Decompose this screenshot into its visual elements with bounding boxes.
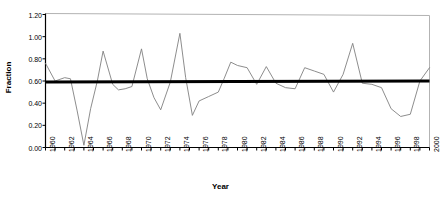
x-axis-ticks (46, 148, 430, 151)
trend-line (46, 81, 430, 82)
x-axis-title: Year (0, 182, 441, 191)
fraction-vs-year-chart: Fraction 1.201.000.800.600.400.200.00 19… (0, 0, 441, 203)
data-series-line (46, 33, 430, 145)
plot-area (0, 0, 441, 203)
x-axis-title-text: Year (212, 182, 229, 191)
